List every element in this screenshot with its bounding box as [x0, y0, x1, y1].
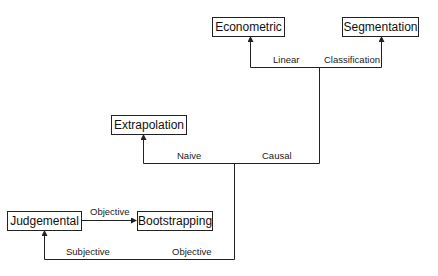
node-segmentation-label: Segmentation	[343, 20, 417, 34]
node-judgemental-label: Judgemental	[10, 214, 79, 228]
node-extrapolation-label: Extrapolation	[114, 118, 184, 132]
edge-label-objective-bottom: Objective	[172, 246, 212, 257]
node-econometric-label: Econometric	[215, 20, 282, 34]
node-extrapolation: Extrapolation	[111, 115, 187, 135]
node-econometric: Econometric	[212, 17, 285, 37]
edge-label-naive: Naive	[177, 150, 201, 161]
naive-causal-connector	[144, 135, 320, 260]
node-judgemental: Judgemental	[7, 211, 82, 231]
edge-label-classification: Classification	[324, 54, 380, 65]
edge-label-linear: Linear	[273, 54, 299, 65]
methodology-tree-diagram: Econometric Segmentation Extrapolation J…	[0, 0, 438, 276]
node-bootstrapping: Bootstrapping	[137, 211, 213, 231]
edge-label-subjective: Subjective	[66, 246, 110, 257]
node-bootstrapping-label: Bootstrapping	[138, 214, 212, 228]
edge-label-causal: Causal	[262, 150, 292, 161]
connector-lines	[0, 0, 438, 276]
node-segmentation: Segmentation	[342, 17, 419, 37]
edge-label-objective-arrow: Objective	[90, 206, 130, 217]
